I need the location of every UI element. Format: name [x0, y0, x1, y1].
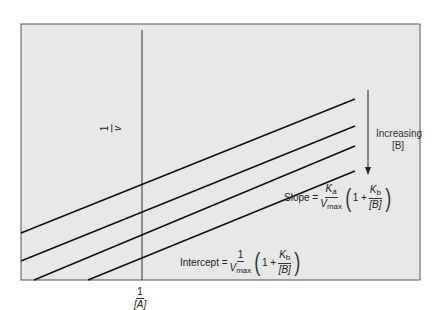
- increasing-label-line2: [B]: [376, 140, 420, 152]
- x-axis-label-numerator: 1: [136, 287, 144, 299]
- slope-f1-num-sub: a: [332, 187, 336, 196]
- y-axis-label-denominator: v: [112, 126, 123, 131]
- y-axis-label-numerator: 1: [100, 125, 112, 133]
- intercept-f2-den: [B]: [279, 264, 291, 275]
- slope-fraction-1: Ka Vmax: [320, 184, 342, 211]
- intercept-equation: Intercept = 1 Vmax ( 1 + Kb [B] ): [180, 249, 302, 275]
- intercept-label: Intercept =: [180, 257, 228, 268]
- intercept-f2-num-sub: b: [286, 253, 290, 262]
- left-paren: (: [345, 185, 351, 211]
- intercept-fraction-2: Kb [B]: [278, 250, 291, 275]
- slope-f1-den-sub: max: [327, 202, 342, 211]
- slope-f1-den: V: [320, 198, 327, 209]
- intercept-f2-num: K: [279, 249, 286, 260]
- left-paren: (: [255, 249, 261, 275]
- intercept-fraction-1: 1 Vmax: [230, 250, 252, 275]
- slope-one-plus: 1 +: [353, 192, 367, 203]
- slope-f2-den: [B]: [369, 199, 381, 210]
- slope-label: Slope =: [284, 192, 318, 203]
- slope-equation: Slope = Ka Vmax ( 1 + Kb [B] ): [284, 184, 393, 211]
- increasing-label-line1: Increasing: [376, 128, 420, 140]
- x-axis-label: 1 [A]: [134, 287, 146, 310]
- y-axis-label: 1 v: [100, 125, 123, 133]
- increasing-b-label: Increasing [B]: [376, 128, 420, 152]
- slope-fraction-2: Kb [B]: [369, 185, 382, 210]
- slope-f2-num-sub: b: [377, 188, 381, 197]
- intercept-one-plus: 1 +: [262, 257, 276, 268]
- intercept-f1-den-sub: max: [236, 266, 251, 275]
- x-axis-label-denominator: [A]: [134, 299, 146, 310]
- intercept-f1-num: 1: [237, 250, 245, 262]
- right-paren: ): [385, 185, 391, 211]
- right-paren: ): [295, 249, 301, 275]
- slope-f2-num: K: [370, 184, 377, 195]
- plot-frame: [21, 24, 420, 280]
